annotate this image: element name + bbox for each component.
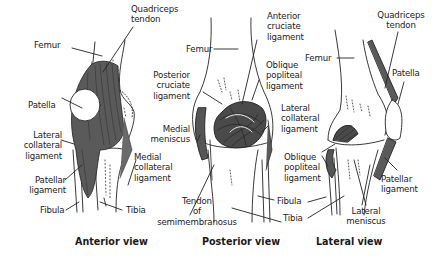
label-anterior-fibula: Fibula <box>40 205 64 215</box>
caption-lateral-view: Lateral view <box>316 236 382 247</box>
label-posterior-medial-meniscus: Medial meniscus <box>140 124 190 145</box>
label-posterior-anterior-cruciate-ligament: Anterior cruciate ligament <box>267 11 304 42</box>
label-lateral-lateral-meniscus: Lateral meniscus <box>340 206 392 227</box>
label-lateral-patella: Patella <box>392 68 420 78</box>
label-posterior-posterior-cruciate-ligament: Posterior cruciate ligament <box>140 70 190 101</box>
label-anterior-femur: Femur <box>34 40 60 50</box>
label-posterior-lateral-collateral-ligament: Lateral collateral ligament <box>281 103 319 134</box>
caption-anterior-view: Anterior view <box>75 236 148 247</box>
label-anterior-lateral-collateral-ligament: Lateral collateral ligament <box>14 130 62 161</box>
label-lateral-oblique-popliteal-ligament: Oblique popliteal ligament <box>284 152 321 183</box>
label-anterior-tibia: Tibia <box>126 205 146 215</box>
label-anterior-medial-collateral-ligament: Medial collateral ligament <box>134 152 172 183</box>
label-lateral-quadriceps-tendon: Quadriceps tendon <box>370 10 432 31</box>
caption-posterior-view: Posterior view <box>202 236 280 247</box>
label-anterior-patella: Patella <box>28 100 56 110</box>
label-posterior-fibula: Fibula <box>277 196 301 206</box>
label-anterior-patellar-ligament: Patellar ligament <box>18 175 66 196</box>
label-posterior-femur: Femur <box>186 44 212 54</box>
label-posterior-oblique-popliteal-ligament: Oblique popliteal ligament <box>266 60 303 91</box>
label-lateral-femur: Femur <box>305 53 331 63</box>
label-anterior-quadriceps-tendon: Quadriceps tendon <box>131 4 178 25</box>
label-posterior-tendon-of-semimembranosus: Tendon of semimembranosus <box>150 196 244 227</box>
anterior-knee-drawing <box>61 27 136 212</box>
label-lateral-patellar-ligament: Patellar ligament <box>381 174 418 195</box>
label-posterior-tibia: Tibia <box>283 213 303 223</box>
